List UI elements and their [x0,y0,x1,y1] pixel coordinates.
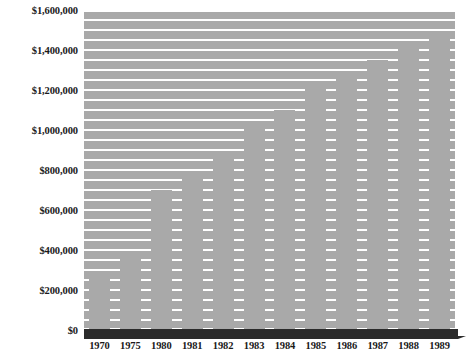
x-tick-label: 1988 [398,340,419,351]
x-axis: 1970197519801981198219831984198519861987… [84,340,455,356]
x-tick-label: 1981 [182,340,203,351]
y-tick-label: $1,000,000 [32,125,78,136]
y-tick-label: $400,000 [39,245,78,256]
y-tick-label: $200,000 [39,285,78,296]
axis-baseline-floor [84,329,458,338]
x-tick-label: 1982 [213,340,234,351]
bar-1987 [367,60,388,330]
y-tick-label: $1,200,000 [32,85,78,96]
x-tick-label: 1989 [429,340,450,351]
bar-1970 [89,277,110,330]
bar-1980 [151,190,172,330]
bar-1988 [398,45,419,330]
y-tick-label: $0 [68,325,78,336]
y-tick-label: $600,000 [39,205,78,216]
floor-bevel [84,336,466,339]
bar-1985 [305,87,326,330]
plot-area [84,10,455,330]
bars-layer [84,10,455,330]
x-tick-label: 1970 [89,340,110,351]
x-tick-label: 1980 [151,340,172,351]
bar-1986 [336,76,357,330]
y-tick-label: $1,400,000 [32,45,78,56]
x-tick-label: 1984 [275,340,296,351]
bar-chart: $0$200,000$400,000$600,000$800,000$1,000… [0,0,466,358]
x-tick-label: 1985 [306,340,327,351]
y-axis: $0$200,000$400,000$600,000$800,000$1,000… [0,0,82,340]
bar-1989 [429,33,450,330]
bar-1982 [213,155,234,330]
bar-1981 [182,171,203,330]
bar-1975 [120,255,141,330]
x-tick-label: 1987 [367,340,388,351]
bar-1984 [274,110,295,330]
y-tick-label: $1,600,000 [32,5,78,16]
bar-1983 [244,125,265,330]
floor-top [84,329,458,336]
y-tick-label: $800,000 [39,165,78,176]
x-tick-label: 1975 [120,340,141,351]
x-tick-label: 1983 [244,340,265,351]
x-tick-label: 1986 [336,340,357,351]
